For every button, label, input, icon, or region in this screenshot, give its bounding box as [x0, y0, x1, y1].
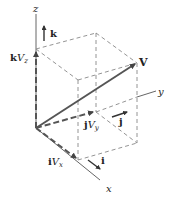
- y-axis-label: y: [157, 86, 164, 97]
- z-component-label: kVz: [10, 52, 28, 65]
- z-axis-label: z: [32, 3, 39, 14]
- y-axis-segment: [137, 91, 156, 97]
- unit-vector-i-label: i: [101, 155, 105, 166]
- x-component-label: iVx: [48, 156, 63, 169]
- vector-v-label: V: [138, 56, 148, 69]
- y-component-label: jVy: [83, 119, 100, 132]
- x-axis-label: x: [106, 183, 112, 194]
- unit-vector-i-arrow: [88, 160, 100, 169]
- unit-vector-j-label: j: [118, 116, 123, 127]
- unit-vectors: [44, 26, 127, 169]
- unit-vector-k-label: k: [50, 28, 58, 39]
- component-vectors: [36, 52, 93, 158]
- vector-components-diagram: z y x V k j i kVz jVy iVx: [0, 0, 172, 201]
